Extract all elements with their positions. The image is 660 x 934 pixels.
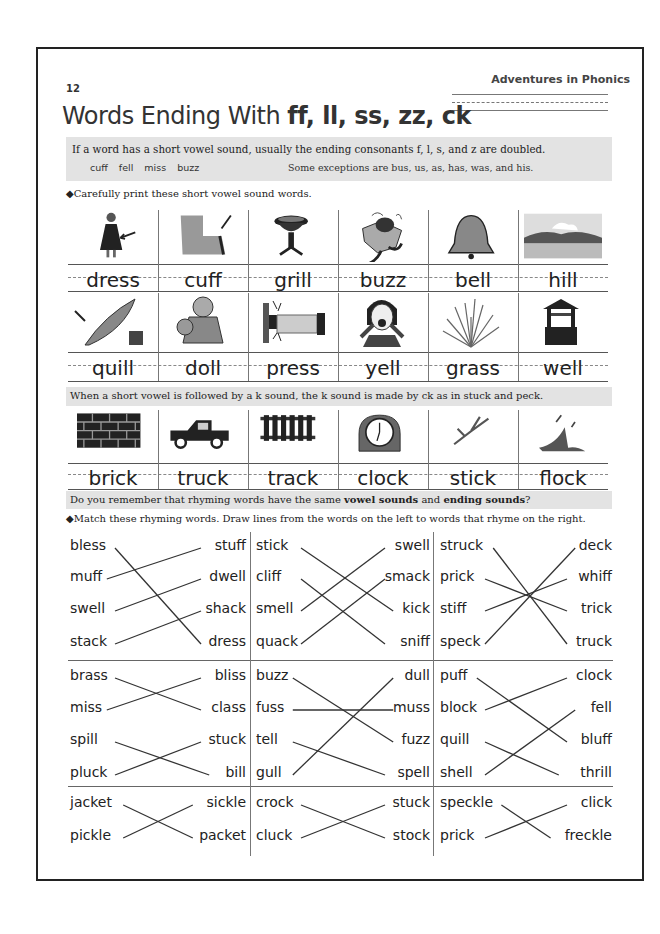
match-line xyxy=(107,548,201,579)
match-line xyxy=(115,611,201,644)
match-line xyxy=(301,548,393,611)
match-lines xyxy=(0,0,660,934)
match-line xyxy=(293,742,385,775)
match-line xyxy=(485,710,575,775)
match-line xyxy=(301,548,385,611)
match-line xyxy=(485,742,559,775)
match-line xyxy=(485,805,567,838)
matching-exercise: blessmuffswellstackstuffdwellshackdresss… xyxy=(0,0,660,934)
match-line xyxy=(485,548,575,644)
match-line xyxy=(485,678,567,710)
match-line xyxy=(477,678,567,742)
match-line xyxy=(115,579,201,611)
